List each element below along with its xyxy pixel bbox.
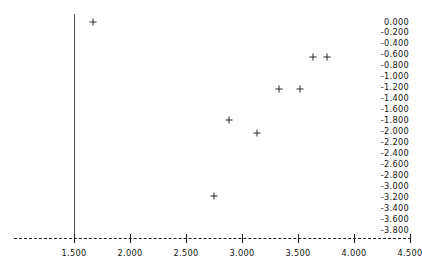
x-axis-tick-label: 2.000 (118, 248, 143, 258)
data-point (297, 85, 304, 92)
plot-area (74, 14, 411, 238)
data-point (90, 19, 97, 26)
data-point (309, 54, 316, 61)
data-point (275, 85, 282, 92)
data-point (253, 130, 260, 137)
data-point (225, 116, 232, 123)
x-axis-tick-label: 2.500 (174, 248, 199, 258)
data-point (324, 54, 331, 61)
x-axis-tick-label: 4.000 (342, 248, 367, 258)
data-point (211, 193, 218, 200)
x-axis-tick-label: 3.500 (286, 248, 311, 258)
x-axis-tick-label: 4.500 (398, 248, 422, 258)
x-axis-tick-label: 1.500 (62, 248, 87, 258)
x-axis-tick-label: 3.000 (230, 248, 255, 258)
